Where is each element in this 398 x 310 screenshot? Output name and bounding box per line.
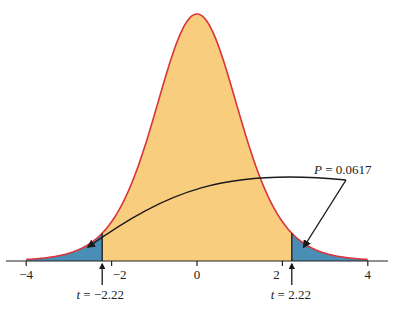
- x-tick-label: 0: [194, 267, 201, 282]
- right-critical-label: t = 2.22: [271, 287, 311, 302]
- x-tick-label: 4: [365, 267, 372, 282]
- x-tick-label: −2: [113, 267, 127, 282]
- p-value-label: P = 0.0617: [313, 162, 372, 177]
- p-value-leader-right: [304, 180, 346, 247]
- central-area: [102, 14, 292, 261]
- right-tail-area: [292, 233, 368, 261]
- x-axis-ticks: −4−2024: [19, 261, 371, 282]
- t-distribution-chart: −4−2024 t = −2.22 t = 2.22 P = 0.0617: [0, 0, 398, 310]
- x-tick-label: 2: [273, 267, 280, 282]
- left-critical-label: t = −2.22: [76, 287, 124, 302]
- left-tail-area: [26, 233, 102, 261]
- x-tick-label: −4: [19, 267, 33, 282]
